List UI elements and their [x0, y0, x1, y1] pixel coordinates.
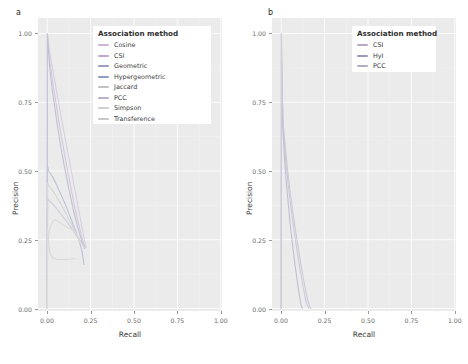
legend-swatch-b-pcc — [357, 65, 368, 67]
legend-item-hypergeometric[interactable]: Hypergeometric — [93, 72, 211, 83]
panel-b: b Precision 0.00 0.25 0.50 0.75 1.00 — [234, 0, 468, 364]
panel-a-xtickmark-2 — [134, 311, 135, 314]
legend-label-b-hyi: HyI — [373, 52, 383, 60]
panel-b-xtickmark-2 — [368, 311, 369, 314]
panel-b-xtick-1: 0.25 — [311, 317, 339, 324]
legend-label-hypergeometric: Hypergeometric — [114, 73, 166, 81]
panel-a-xtickmark-4 — [221, 311, 222, 314]
legend-label-cosine: Cosine — [114, 41, 135, 49]
legend-item-transference[interactable]: Transference — [93, 114, 211, 125]
legend-swatch-jaccard — [98, 86, 109, 88]
legend-label-geometric: Geometric — [114, 62, 147, 70]
legend-swatch-pcc — [98, 97, 109, 99]
panel-b-ytick-4: 1.00 — [240, 30, 266, 37]
legend-item-jaccard[interactable]: Jaccard — [93, 82, 211, 93]
panel-a-ytick-0: 0.00 — [6, 306, 32, 313]
legend-item-pcc[interactable]: PCC — [93, 93, 211, 104]
panel-b-xtickmark-4 — [455, 311, 456, 314]
panel-a-legend-title: Association method — [93, 26, 211, 40]
legend-item-csi[interactable]: CSI — [93, 51, 211, 62]
panel-b-xtick-0: 0.00 — [267, 317, 295, 324]
legend-label-pcc: PCC — [114, 94, 127, 102]
legend-item-b-csi[interactable]: CSI — [352, 40, 436, 51]
panel-a-xtickmark-0 — [47, 311, 48, 314]
legend-item-b-pcc[interactable]: PCC — [352, 61, 436, 72]
legend-label-b-csi: CSI — [373, 41, 383, 49]
panel-b-legend-title: Association method — [352, 26, 436, 40]
panel-a-x-axis-label: Recall — [38, 330, 222, 339]
panel-a-xtick-3: 0.75 — [163, 317, 191, 324]
panel-a-ytick-3: 0.75 — [6, 99, 32, 106]
legend-swatch-simpson — [98, 107, 109, 109]
panel-b-xtickmark-3 — [411, 311, 412, 314]
panel-a-xtick-4: 1.00 — [207, 317, 235, 324]
legend-label-jaccard: Jaccard — [114, 83, 137, 91]
panel-b-xtick-2: 0.50 — [354, 317, 382, 324]
panel-b-x-axis-label: Recall — [272, 330, 456, 339]
legend-swatch-b-hyi — [357, 55, 368, 57]
panel-a-plot-area: Association method Cosine CSI Geometric … — [38, 18, 222, 311]
panel-b-plot-area: Association method CSI HyI PCC — [272, 18, 456, 311]
panel-b-ytick-1: 0.25 — [240, 237, 266, 244]
panel-a-y-axis-label: Precision — [11, 182, 20, 215]
legend-item-geometric[interactable]: Geometric — [93, 61, 211, 72]
panel-b-legend: Association method CSI HyI PCC — [352, 26, 436, 72]
curve-transference — [47, 229, 75, 309]
panel-b-y-axis-label: Precision — [245, 182, 254, 215]
panel-a-xtick-2: 0.50 — [120, 317, 148, 324]
legend-item-simpson[interactable]: Simpson — [93, 103, 211, 114]
panel-a-xtick-0: 0.00 — [33, 317, 61, 324]
legend-item-b-hyi[interactable]: HyI — [352, 51, 436, 62]
panel-b-xtick-3: 0.75 — [397, 317, 425, 324]
panel-b-ytick-0: 0.00 — [240, 306, 266, 313]
panel-a-xtickmark-1 — [91, 311, 92, 314]
panel-b-tag: b — [268, 8, 273, 17]
panel-a-ytick-2: 0.50 — [6, 168, 32, 175]
panel-a-legend: Association method Cosine CSI Geometric … — [93, 26, 211, 124]
legend-label-transference: Transference — [114, 115, 155, 123]
precision-recall-figure: a Precision 0.00 0.25 0.50 0.75 1.00 — [0, 0, 468, 364]
legend-swatch-cosine — [98, 44, 109, 46]
panel-a-tag: a — [16, 8, 21, 17]
panel-a-xtickmark-3 — [177, 311, 178, 314]
panel-a: a Precision 0.00 0.25 0.50 0.75 1.00 — [0, 0, 234, 364]
legend-item-cosine[interactable]: Cosine — [93, 40, 211, 51]
panel-a-ytick-1: 0.25 — [6, 237, 32, 244]
panel-b-ytick-2: 0.50 — [240, 168, 266, 175]
legend-swatch-hypergeometric — [98, 76, 109, 78]
panel-b-xtickmark-0 — [281, 311, 282, 314]
legend-swatch-csi — [98, 55, 109, 57]
panel-a-xtick-1: 0.25 — [77, 317, 105, 324]
panel-b-ytick-3: 0.75 — [240, 99, 266, 106]
curve-jaccard — [47, 183, 84, 308]
legend-label-simpson: Simpson — [114, 104, 141, 112]
panel-b-xtickmark-1 — [325, 311, 326, 314]
legend-label-csi: CSI — [114, 52, 124, 60]
legend-swatch-b-csi — [357, 44, 368, 46]
legend-label-b-pcc: PCC — [373, 62, 386, 70]
legend-swatch-geometric — [98, 65, 109, 67]
panel-b-xtick-4: 1.00 — [441, 317, 468, 324]
legend-swatch-transference — [98, 118, 109, 120]
panel-a-ytick-4: 1.00 — [6, 30, 32, 37]
